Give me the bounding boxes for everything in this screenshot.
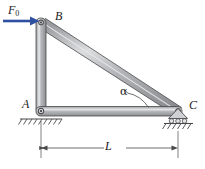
member-AC xyxy=(36,107,182,117)
diagram-canvas xyxy=(0,0,205,169)
label-angle-alpha: α xyxy=(120,86,127,97)
frame-members xyxy=(36,18,182,116)
member-BC xyxy=(38,19,182,116)
truss-diagram: B A C F0 α L xyxy=(0,0,205,169)
label-force-F0: F0 xyxy=(8,4,19,18)
label-joint-C: C xyxy=(189,99,197,111)
label-joint-A: A xyxy=(22,98,29,110)
support-A-pin xyxy=(19,119,63,125)
member-AB xyxy=(36,18,46,114)
force-subscript: 0 xyxy=(15,9,19,18)
label-joint-B: B xyxy=(55,10,62,22)
label-dimension-L: L xyxy=(105,140,112,152)
